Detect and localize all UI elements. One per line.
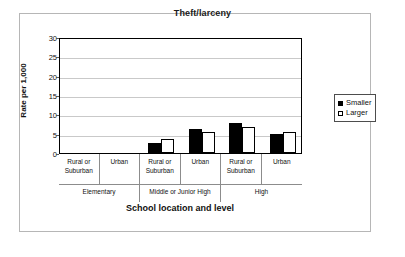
chart-title: Theft/larceny bbox=[0, 8, 405, 18]
y-tick-label: 20 bbox=[35, 72, 57, 81]
x-axis-category-band: Rural orSuburbanUrbanRural orSuburbanUrb… bbox=[59, 154, 302, 184]
x-category-label-line: Urban bbox=[100, 158, 140, 167]
bar-group bbox=[60, 39, 101, 153]
bar-smaller bbox=[148, 143, 161, 153]
plot-area bbox=[59, 38, 302, 154]
y-axis-title: Rate per 1,000 bbox=[19, 51, 28, 131]
y-tick-mark bbox=[56, 57, 59, 58]
x-group-label: High bbox=[221, 185, 302, 202]
y-tick-mark bbox=[56, 38, 59, 39]
bar-group bbox=[101, 39, 142, 153]
x-category-label-line: Rural or bbox=[221, 158, 261, 167]
y-tick-mark bbox=[56, 115, 59, 116]
bar-group bbox=[141, 39, 182, 153]
chart-legend: SmallerLarger bbox=[334, 94, 376, 122]
x-category-label-line: Urban bbox=[262, 158, 303, 167]
x-category-label-line: Rural or bbox=[59, 158, 99, 167]
bar-smaller bbox=[189, 129, 202, 153]
legend-item-label: Smaller bbox=[346, 98, 371, 108]
x-axis-group-band: ElementaryMiddle or Junior HighHigh bbox=[59, 184, 302, 202]
y-tick-label: 5 bbox=[35, 130, 57, 139]
x-category-label: Rural orSuburban bbox=[221, 154, 262, 184]
filled-square-icon bbox=[338, 101, 343, 106]
x-group-label: Elementary bbox=[59, 185, 140, 202]
y-tick-mark bbox=[56, 135, 59, 136]
bar-smaller bbox=[229, 123, 242, 153]
legend-item: Larger bbox=[338, 108, 371, 118]
x-category-label-line: Urban bbox=[181, 158, 221, 167]
y-tick-mark bbox=[56, 77, 59, 78]
y-tick-label: 0 bbox=[35, 150, 57, 159]
hollow-square-icon bbox=[338, 111, 343, 116]
bar-larger bbox=[242, 127, 255, 153]
bar-group bbox=[182, 39, 223, 153]
x-category-label: Urban bbox=[262, 154, 303, 184]
x-category-label: Rural orSuburban bbox=[59, 154, 100, 184]
x-category-label-line: Suburban bbox=[221, 167, 261, 176]
legend-item: Smaller bbox=[338, 98, 371, 108]
y-tick-mark bbox=[56, 96, 59, 97]
x-axis-title: School location and level bbox=[40, 203, 320, 213]
bar-larger bbox=[161, 139, 174, 153]
y-tick-label: 15 bbox=[35, 92, 57, 101]
x-category-label: Urban bbox=[181, 154, 222, 184]
x-category-label: Rural orSuburban bbox=[140, 154, 181, 184]
y-tick-label: 10 bbox=[35, 111, 57, 120]
legend-item-label: Larger bbox=[346, 108, 368, 118]
x-category-label: Urban bbox=[100, 154, 141, 184]
bar-group bbox=[263, 39, 304, 153]
bar-smaller bbox=[270, 134, 283, 153]
y-tick-label: 30 bbox=[35, 34, 57, 43]
x-category-label-line: Rural or bbox=[140, 158, 180, 167]
x-group-label: Middle or Junior High bbox=[140, 185, 221, 202]
bar-larger bbox=[202, 132, 215, 153]
y-tick-label: 25 bbox=[35, 53, 57, 62]
x-category-label-line: Suburban bbox=[59, 167, 99, 176]
x-category-label-line: Suburban bbox=[140, 167, 180, 176]
bar-group bbox=[222, 39, 263, 153]
bar-larger bbox=[283, 132, 296, 153]
